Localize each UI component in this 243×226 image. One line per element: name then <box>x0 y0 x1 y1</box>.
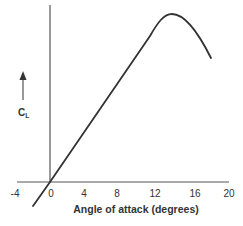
x-tick-label: 16 <box>189 188 201 199</box>
lift-curve-chart: -4 0 4 8 12 16 20 Angle of attack (degre… <box>0 0 243 226</box>
y-axis-label: CL <box>18 71 29 119</box>
y-axis-title: CL <box>18 107 29 119</box>
x-tick-label: 12 <box>149 188 161 199</box>
x-tick-label: 0 <box>48 188 54 199</box>
x-tick-label: 4 <box>81 188 87 199</box>
arrow-head-icon <box>20 71 27 80</box>
lift-curve-line <box>33 14 211 206</box>
x-tick-label: -4 <box>11 188 20 199</box>
x-axis-title: Angle of attack (degrees) <box>73 203 198 215</box>
x-tick-label: 20 <box>223 188 235 199</box>
x-tick-label: 8 <box>114 188 120 199</box>
